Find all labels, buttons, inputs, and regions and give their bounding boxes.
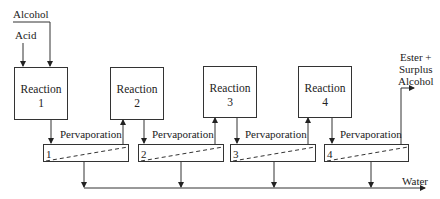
unit-number: 1	[46, 148, 52, 160]
reactor-number: 4	[299, 95, 351, 109]
reactor-title: Reaction	[111, 82, 163, 96]
membrane-line	[325, 145, 410, 163]
reactor-title: Reaction	[15, 82, 67, 96]
pervaporation-label-4: Pervaporation	[340, 128, 402, 140]
membrane-line	[231, 145, 317, 163]
reactor-number: 3	[204, 95, 256, 109]
reactor-number: 2	[111, 96, 163, 110]
reactor-1: Reaction 1	[14, 67, 68, 120]
reactor-title: Reaction	[299, 81, 351, 95]
pervaporation-unit-1: 1	[43, 144, 129, 162]
product-output-label: Ester + Surplus Alcohol	[398, 51, 433, 87]
acid-feed-label: Acid	[15, 29, 36, 41]
pervaporation-unit-4: 4	[324, 144, 409, 162]
reactor-title: Reaction	[204, 81, 256, 95]
product-line-1: Ester +	[398, 51, 433, 63]
product-line-3: Alcohol	[398, 75, 433, 87]
unit-number: 2	[141, 148, 147, 160]
membrane-line	[139, 145, 225, 163]
reactor-4: Reaction 4	[298, 66, 352, 118]
product-line-2: Surplus	[398, 63, 433, 75]
pervaporation-unit-2: 2	[138, 144, 224, 162]
pervaporation-label-3: Pervaporation	[245, 128, 307, 140]
reactor-3: Reaction 3	[203, 66, 257, 118]
water-output-label: Water	[402, 175, 428, 187]
reactor-2: Reaction 2	[110, 67, 164, 120]
pervaporation-label-1: Pervaporation	[60, 128, 122, 140]
pervaporation-unit-3: 3	[230, 144, 316, 162]
pervaporation-label-2: Pervaporation	[152, 128, 214, 140]
unit-number: 3	[233, 148, 239, 160]
unit-number: 4	[327, 148, 333, 160]
reactor-number: 1	[15, 96, 67, 110]
alcohol-feed-label: Alcohol	[13, 8, 48, 20]
membrane-line	[44, 145, 130, 163]
